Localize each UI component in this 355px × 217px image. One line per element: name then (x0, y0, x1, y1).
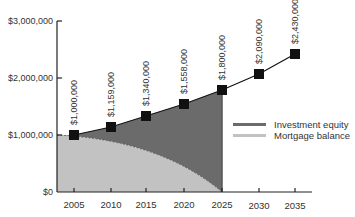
xtick-2020: 2020 (173, 199, 194, 210)
xtick-2025: 2025 (211, 199, 232, 210)
x-tick-labels: 2005 2010 2015 2020 2025 2030 2035 (63, 199, 305, 211)
ytick-2m: $2,000,000 (8, 73, 53, 83)
legend-swatch-investment-equity (233, 123, 266, 126)
xtick-2030: 2030 (248, 200, 269, 211)
data-label-2010: $1,159,000 (106, 72, 116, 117)
marker-2020 (179, 99, 189, 109)
marker-2035 (290, 49, 300, 59)
y-tick-labels: $0 $1,000,000 $2,000,000 $3,000,000 (8, 16, 53, 197)
plot-areas (57, 90, 222, 192)
ytick-1m: $1,000,000 (8, 130, 53, 140)
legend-label-mortgage-balance: Mortgage balance (274, 130, 350, 141)
marker-2015 (141, 111, 151, 121)
marker-2030 (254, 69, 264, 79)
data-label-2030: $2,090,000 (254, 19, 264, 64)
marker-2005 (69, 130, 79, 140)
legend-label-investment-equity: Investment equity (274, 119, 349, 130)
legend: Investment equity Mortgage balance (233, 119, 350, 141)
ytick-0: $0 (43, 187, 53, 197)
data-label-2035: $2,430,000 (290, 0, 300, 44)
xtick-2035: 2035 (284, 200, 305, 211)
xtick-2015: 2015 (135, 199, 156, 210)
xtick-2005: 2005 (63, 199, 84, 210)
chart: $1,000,000 $1,159,000 $1,340,000 $1,558,… (0, 0, 355, 217)
marker-2010 (106, 122, 116, 132)
data-label-2005: $1,000,000 (69, 80, 79, 125)
ytick-3m: $3,000,000 (8, 16, 53, 26)
legend-swatch-mortgage-balance (233, 134, 266, 137)
marker-2025 (217, 85, 227, 95)
data-label-2020: $1,558,000 (179, 49, 189, 94)
xtick-2010: 2010 (100, 199, 121, 210)
data-label-2025: $1,800,000 (217, 35, 227, 80)
data-label-2015: $1,340,000 (141, 61, 151, 106)
